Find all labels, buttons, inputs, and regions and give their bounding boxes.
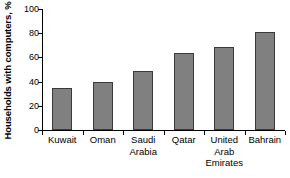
bar [52, 88, 72, 130]
y-axis-tick-mark [38, 9, 42, 10]
bar [174, 53, 194, 130]
x-axis-category-labels: KuwaitOmanSaudi ArabiaQatarUnited Arab E… [42, 134, 285, 178]
y-axis-tick-label: 20 [15, 101, 39, 110]
y-axis-tick-label: 0 [15, 126, 39, 135]
y-axis-tick-mark [38, 82, 42, 83]
y-axis-tick-label: 100 [15, 5, 39, 14]
y-axis-tick-label: 80 [15, 29, 39, 38]
bar [214, 47, 234, 130]
y-axis-line [42, 9, 43, 130]
y-axis-tick-label: 40 [15, 77, 39, 86]
y-axis-tick-mark [38, 33, 42, 34]
bar [255, 32, 275, 130]
bar [133, 71, 153, 130]
y-axis-title: Households with computers, % [0, 0, 14, 140]
x-axis-category-label: Bahrain [241, 134, 290, 146]
y-axis-tick-label: 60 [15, 53, 39, 62]
bar-chart: Households with computers, % 10080604020… [0, 0, 289, 178]
y-axis-tick-mark [38, 106, 42, 107]
y-axis-tick-mark [38, 57, 42, 58]
plot-area [42, 9, 285, 130]
y-axis-title-text: Households with computers, % [2, 1, 13, 139]
bar [93, 82, 113, 130]
y-axis-tick-labels: 100806040200 [13, 0, 39, 140]
